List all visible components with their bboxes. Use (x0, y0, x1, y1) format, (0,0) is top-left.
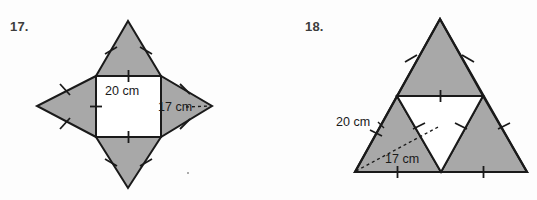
page-speck (187, 172, 189, 174)
triangle-left-shaded (37, 76, 96, 137)
figure-17-star: 20 cm 17 cm (0, 0, 268, 200)
worksheet-page: 17. (0, 0, 537, 200)
label-square-side-20cm: 20 cm (105, 84, 139, 98)
label-triangle-slant-17cm: 17 cm (158, 100, 192, 114)
triangle-top-shaded (96, 21, 161, 76)
label-outer-side-20cm: 20 cm (336, 115, 370, 129)
triangle-bottom-shaded (96, 137, 161, 188)
tick-top-triangle-left-leg (405, 55, 417, 62)
figure-18-subdivided-triangle: 20 cm 17 cm (268, 0, 537, 200)
problem-17: 17. (0, 0, 268, 200)
problem-18: 18. (268, 0, 537, 200)
label-inner-segment-17cm: 17 cm (385, 152, 419, 166)
triangle-top-corner-shaded (397, 19, 483, 96)
